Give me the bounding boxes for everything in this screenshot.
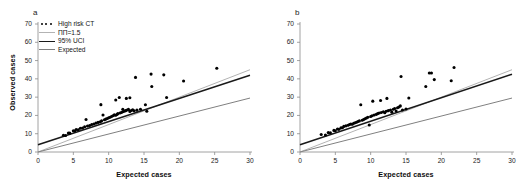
legend-item: ПП=1.5 bbox=[39, 29, 94, 38]
legend-item: High risk CT bbox=[39, 20, 94, 29]
chart-legend: High risk CTПП=1.595% UCIExpected bbox=[39, 20, 94, 54]
legend-item-label: ПП=1.5 bbox=[58, 29, 81, 38]
y-tick-label: 10 bbox=[4, 130, 32, 137]
x-tick-label: 10 bbox=[361, 157, 381, 164]
legend-line-swatch bbox=[39, 49, 55, 50]
legend-dots-icon bbox=[39, 20, 55, 28]
panel-b: b Expected cases 01020304050607005101520… bbox=[262, 0, 524, 189]
legend-dot-icon bbox=[45, 23, 47, 25]
x-tick-label: 20 bbox=[431, 157, 451, 164]
legend-line-swatch bbox=[39, 32, 55, 33]
y-tick-label: 70 bbox=[266, 20, 294, 27]
y-tick-label: 0 bbox=[4, 148, 32, 155]
y-tick-label: 20 bbox=[4, 111, 32, 118]
y-tick-label: 40 bbox=[4, 75, 32, 82]
x-tick-label: 0 bbox=[290, 157, 310, 164]
y-tick-label: 50 bbox=[266, 57, 294, 64]
y-tick-label: 60 bbox=[4, 38, 32, 45]
x-tick-label: 25 bbox=[467, 157, 487, 164]
legend-line-swatch bbox=[39, 41, 55, 43]
y-tick-label: 50 bbox=[4, 57, 32, 64]
legend-item: 95% UCI bbox=[39, 37, 94, 46]
legend-item-label: High risk CT bbox=[58, 20, 94, 29]
y-tick-label: 30 bbox=[266, 93, 294, 100]
panel-a: a Observed cases Expected cases High ris… bbox=[0, 0, 262, 189]
legend-line-icon bbox=[39, 46, 55, 54]
y-tick-label: 70 bbox=[4, 20, 32, 27]
legend-line-icon bbox=[39, 37, 55, 45]
x-tick-label: 30 bbox=[502, 157, 522, 164]
y-tick-label: 40 bbox=[266, 75, 294, 82]
legend-dot-icon bbox=[41, 23, 43, 25]
x-tick-label: 20 bbox=[169, 157, 189, 164]
y-tick-label: 10 bbox=[266, 130, 294, 137]
legend-line-icon bbox=[39, 29, 55, 37]
x-tick-label: 25 bbox=[205, 157, 225, 164]
legend-item: Expected bbox=[39, 46, 94, 55]
y-tick-label: 30 bbox=[4, 93, 32, 100]
legend-item-label: 95% UCI bbox=[58, 37, 84, 46]
y-tick-label: 0 bbox=[266, 148, 294, 155]
x-tick-label: 15 bbox=[134, 157, 154, 164]
figure-container: a Observed cases Expected cases High ris… bbox=[0, 0, 524, 189]
legend-dot-icon bbox=[50, 23, 52, 25]
x-tick-label: 10 bbox=[99, 157, 119, 164]
x-tick-label: 5 bbox=[325, 157, 345, 164]
legend-item-label: Expected bbox=[58, 46, 86, 55]
y-tick-label: 60 bbox=[266, 38, 294, 45]
x-tick-label: 15 bbox=[396, 157, 416, 164]
y-tick-label: 20 bbox=[266, 111, 294, 118]
x-tick-label: 30 bbox=[240, 157, 260, 164]
x-tick-label: 5 bbox=[63, 157, 83, 164]
x-tick-label: 0 bbox=[28, 157, 48, 164]
